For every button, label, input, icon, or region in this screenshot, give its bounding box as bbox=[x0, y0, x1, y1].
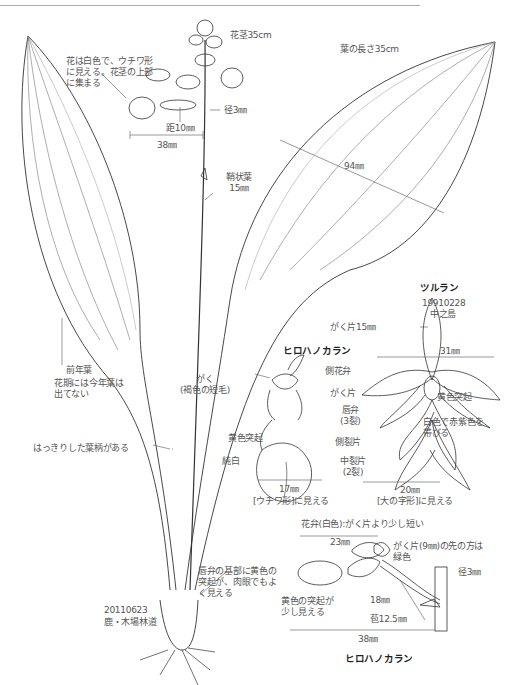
yellow-projection-note: 黄色の突起が 少し見える bbox=[281, 596, 333, 618]
middle-lobe-label: 中裂片 (2裂) bbox=[340, 456, 366, 478]
lip-base-note: 唇弁の基部に黄色の 突起が、肉眼でもよ く見える bbox=[198, 566, 276, 599]
stem-diameter-label: 径3㎜ bbox=[458, 567, 481, 578]
total-length-label: 38㎜ bbox=[358, 634, 378, 645]
yellow-bump-label: 黄色突起 bbox=[228, 433, 263, 444]
tsururan-title: ツルラン bbox=[420, 282, 459, 293]
left-leaf bbox=[22, 36, 176, 590]
plant-base bbox=[140, 600, 215, 685]
specimen-place: 鹿・木場林道 bbox=[104, 617, 156, 628]
tsururan-yellow-bump: 黄色突起 bbox=[437, 392, 472, 403]
tsururan-color-note: 白色で赤紫色を 帯びる bbox=[423, 417, 484, 439]
previous-year-leaf-note: 花期には今年葉は 出てない bbox=[54, 378, 124, 400]
flower-width-label: 38㎜ bbox=[157, 140, 177, 151]
sepal-label: がく片 bbox=[330, 388, 356, 399]
sepal-hair-label: がく (褐色の短毛) bbox=[180, 374, 230, 396]
pure-white-label: 純白 bbox=[222, 456, 239, 467]
tsururan-flower bbox=[362, 298, 500, 490]
bract-length-label: 苞12.5㎜ bbox=[370, 614, 406, 625]
petiole-label: はっきりした葉柄がある bbox=[33, 443, 129, 454]
previous-year-leaf-label: 前年葉 bbox=[66, 365, 92, 376]
scape-length-label: 花茎35cm bbox=[230, 30, 271, 41]
sepal-color-note: がく片(9㎜)の先の方は 緑色 bbox=[393, 541, 483, 563]
spur-length-label: 距10㎜ bbox=[166, 123, 194, 134]
petal-length-label: 23㎜ bbox=[330, 537, 350, 548]
spur-diameter-label: 径3㎜ bbox=[224, 105, 247, 116]
hirohanokaran-lip-shape: [ウチワ形]に見える bbox=[253, 496, 329, 507]
hirohanokaran-title: ヒロハノカラン bbox=[283, 345, 351, 356]
lateral-petal-label: 側花弁 bbox=[325, 366, 351, 377]
tsururan-lip-shape: [大の字形]に見える bbox=[377, 496, 453, 507]
lateral-lobe-label: 側裂片 bbox=[335, 437, 361, 448]
specimen-date: 20110623 bbox=[104, 605, 147, 616]
spur-length-side: 18㎜ bbox=[370, 595, 390, 606]
tsururan-date: 19910228 bbox=[422, 298, 465, 309]
flower-description: 花は白色で、ウチワ形 に見える。花茎の上部 に集まる bbox=[66, 56, 153, 89]
lip-label: 唇弁 (3裂) bbox=[340, 405, 361, 427]
tsururan-lip-width: 20㎜ bbox=[400, 485, 420, 496]
sheath-leaf-label: 鞘状葉 15㎜ bbox=[226, 172, 252, 194]
side-view-title: ヒロハノカラン bbox=[345, 653, 413, 664]
tsururan-place: 中之島 bbox=[430, 309, 456, 320]
hirohanokaran-lip-width: 17㎜ bbox=[279, 484, 299, 495]
tsururan-width-label: 31㎜ bbox=[440, 346, 460, 357]
leaf-length-label: 葉の長さ35cm bbox=[340, 44, 399, 55]
leaf-width-label: 94㎜ bbox=[344, 161, 364, 172]
petal-note: 花弁(白色):がく片より少し短い bbox=[301, 519, 423, 530]
tsururan-sepal-label: がく片15㎜ bbox=[330, 322, 376, 333]
